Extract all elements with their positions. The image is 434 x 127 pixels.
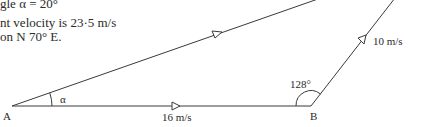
resultant-vector-line (12, 0, 318, 106)
point-a-label: A (3, 110, 11, 123)
resultant-arrow-icon (212, 31, 222, 38)
vector-triangle-diagram (0, 0, 434, 127)
vector-bc-label: 10 m/s (373, 35, 403, 48)
point-b-label: B (310, 110, 317, 123)
vector-bc-arrow-icon (358, 35, 366, 44)
vector-bc-line (311, 0, 395, 106)
vector-ab-arrow-icon (172, 102, 180, 110)
angle-b-label: 128° (290, 78, 311, 91)
angle-alpha-arc (50, 93, 52, 106)
vector-ab-label: 16 m/s (162, 111, 192, 124)
angle-alpha-label: α (60, 93, 66, 106)
